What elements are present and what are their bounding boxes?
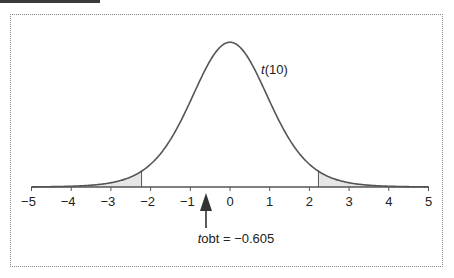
x-tick-label: −5 [21,194,36,209]
x-axis-ticks: −5−4−3−2−1012345 [21,187,432,209]
curve-label: t(10) [261,62,288,77]
x-tick-label: −1 [180,194,195,209]
x-tick-label: 3 [345,194,352,209]
tobt-arrow-icon [200,193,212,228]
x-tick-label: −2 [140,194,155,209]
x-tick-label: 5 [425,194,432,209]
x-tick-label: −3 [100,194,115,209]
tobt-annotation: tobt = −0.605 [198,231,275,246]
x-tick-label: 2 [306,194,313,209]
x-tick-label: 4 [385,194,392,209]
density-curve [32,42,429,187]
t-distribution-chart: −5−4−3−2−1012345 t(10) tobt = −0.605 [0,0,454,278]
x-tick-label: −4 [61,194,76,209]
x-tick-label: 1 [266,194,273,209]
x-tick-label: 0 [226,194,233,209]
